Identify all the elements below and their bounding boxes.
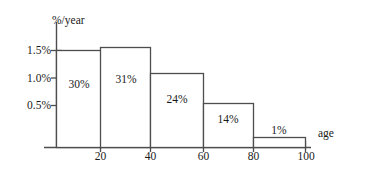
histogram-figure: %/year age 1.5% 1.0% 0.5% 20 40 60 80 10… — [0, 0, 369, 175]
chart-canvas — [0, 0, 369, 175]
x-axis-title: age — [318, 127, 334, 139]
bar-0-20 — [57, 51, 102, 148]
x-tick-label-40: 40 — [134, 150, 167, 162]
x-tick-label-100: 100 — [288, 150, 324, 162]
x-tick-label-60: 60 — [187, 150, 220, 162]
y-tick-label-1_5: 1.5% — [13, 44, 51, 56]
bar-40-60 — [151, 74, 204, 148]
bar-20-40 — [101, 48, 151, 148]
bar-label-20-40: 31% — [104, 73, 148, 85]
bar-label-80-100: 1% — [259, 124, 299, 136]
bar-80-100 — [254, 138, 306, 148]
x-tick-label-20: 20 — [84, 150, 117, 162]
x-tick-label-80: 80 — [237, 150, 270, 162]
y-tick-label-1_0: 1.0% — [13, 72, 51, 84]
bar-label-40-60: 24% — [155, 93, 199, 105]
bar-label-60-80: 14% — [206, 113, 250, 125]
y-axis-title: %/year — [52, 14, 85, 26]
y-tick-label-0_5: 0.5% — [13, 99, 51, 111]
bar-label-0-20: 30% — [58, 78, 100, 90]
bar-60-80 — [204, 104, 254, 148]
